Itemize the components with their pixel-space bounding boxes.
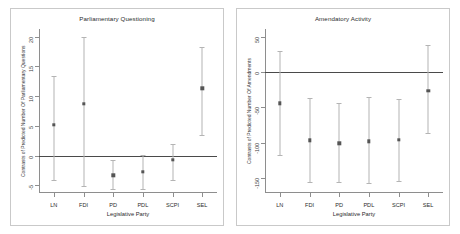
error-bar-ln [53, 76, 54, 180]
y-tick-label-1-0: 50 [254, 37, 260, 43]
x-tick-1-2 [339, 193, 340, 197]
y-tick-0-0 [35, 37, 39, 38]
error-cap-pd-lower [111, 189, 116, 190]
x-tick-label-scpi: SCPI [392, 202, 405, 208]
data-point-scpi [171, 158, 174, 161]
error-cap-fdi-upper [307, 98, 312, 99]
y-tick-label-0-3: 5 [28, 126, 34, 129]
y-tick-label-0-5: -5 [28, 185, 34, 190]
error-cap-pdl-lower [366, 183, 371, 184]
data-point-sel [426, 89, 429, 92]
data-point-pd [111, 173, 114, 176]
error-cap-sel-lower [426, 133, 431, 134]
y-tick-label-1-1: 0 [254, 72, 260, 75]
y-tick-1-4 [261, 178, 265, 179]
x-tick-label-sel: SEL [423, 202, 434, 208]
x-tick-label-ln: LN [276, 202, 283, 208]
y-axis-line-right [265, 29, 266, 193]
plot-area-right: Legislative Party 500-50-100-150LNFDIPDP… [265, 29, 443, 193]
x-tick-label-fdi: FDI [305, 202, 314, 208]
error-bar-sel [202, 47, 203, 135]
x-tick-1-3 [369, 193, 370, 197]
error-cap-sel-upper [200, 47, 205, 48]
x-tick-0-5 [202, 193, 203, 197]
y-tick-0-3 [35, 126, 39, 127]
x-tick-1-4 [399, 193, 400, 197]
x-tick-0-4 [173, 193, 174, 197]
data-point-sel [200, 87, 203, 90]
panel-title-right: Amendatory Activity [237, 15, 449, 22]
error-cap-sel-lower [200, 135, 205, 136]
plot-area-left: Legislative Party 20151050-5LNFDIPDPDLSC… [39, 29, 217, 193]
y-tick-label-1-4: -150 [254, 178, 260, 189]
y-tick-1-3 [261, 143, 265, 144]
error-cap-pdl-lower [140, 189, 145, 190]
data-point-pd [337, 142, 340, 145]
figure-canvas: Parliamentary Questioning Legislative Pa… [0, 0, 460, 234]
error-cap-scpi-lower [396, 181, 401, 182]
x-tick-1-5 [428, 193, 429, 197]
y-axis-title-left: Contrasts of Predicted Number Of Parliam… [20, 45, 26, 176]
error-cap-pdl-upper [140, 155, 145, 156]
x-axis-line-left [39, 192, 217, 193]
y-tick-label-0-4: 0 [28, 156, 34, 159]
x-tick-label-fdi: FDI [79, 202, 88, 208]
y-tick-label-0-1: 15 [28, 66, 34, 72]
y-tick-1-2 [261, 107, 265, 108]
y-tick-label-1-2: -50 [254, 107, 260, 115]
x-tick-1-1 [310, 193, 311, 197]
error-cap-fdi-upper [81, 37, 86, 38]
y-axis-title-right: Contrasts of Predicted Number Of Amendme… [246, 58, 252, 164]
error-cap-ln-lower [277, 155, 282, 156]
error-cap-scpi-upper [396, 99, 401, 100]
x-tick-0-3 [143, 193, 144, 197]
error-cap-pdl-upper [366, 97, 371, 98]
error-cap-scpi-lower [170, 180, 175, 181]
y-tick-0-1 [35, 66, 39, 67]
x-tick-1-0 [280, 193, 281, 197]
x-tick-0-0 [54, 193, 55, 197]
data-point-ln [278, 102, 281, 105]
error-cap-pd-lower [337, 182, 342, 183]
zero-reference-line-1 [265, 72, 443, 73]
error-cap-ln-lower [51, 180, 56, 181]
x-tick-label-pdl: PDL [363, 202, 374, 208]
x-tick-label-pd: PD [109, 202, 117, 208]
error-cap-sel-upper [426, 45, 431, 46]
x-tick-label-pd: PD [335, 202, 343, 208]
y-tick-0-5 [35, 185, 39, 186]
error-cap-pd-upper [337, 103, 342, 104]
data-point-ln [52, 123, 55, 126]
y-axis-line-left [39, 29, 40, 193]
error-cap-fdi-lower [81, 186, 86, 187]
x-tick-0-1 [84, 193, 85, 197]
panel-amendatory-activity: Amendatory Activity Legislative Party 50… [236, 8, 450, 226]
y-tick-label-0-2: 10 [28, 96, 34, 102]
zero-reference-line-0 [39, 156, 217, 157]
x-tick-label-ln: LN [50, 202, 57, 208]
data-point-scpi [397, 138, 400, 141]
error-cap-ln-upper [277, 51, 282, 52]
panel-title-left: Parliamentary Questioning [11, 15, 223, 22]
y-tick-0-2 [35, 96, 39, 97]
data-point-pdl [141, 170, 144, 173]
x-tick-0-2 [113, 193, 114, 197]
x-axis-line-right [265, 192, 443, 193]
error-bar-fdi [83, 37, 84, 186]
error-bar-scpi [172, 144, 173, 180]
x-axis-title-right: Legislative Party [265, 211, 443, 217]
x-tick-label-pdl: PDL [137, 202, 148, 208]
y-tick-1-0 [261, 37, 265, 38]
error-cap-pd-upper [111, 160, 116, 161]
panel-parliamentary-questioning: Parliamentary Questioning Legislative Pa… [10, 8, 224, 226]
data-point-fdi [308, 139, 311, 142]
error-cap-ln-upper [51, 76, 56, 77]
x-tick-label-scpi: SCPI [166, 202, 179, 208]
y-tick-label-0-0: 20 [28, 37, 34, 43]
data-point-fdi [82, 102, 85, 105]
x-axis-title-left: Legislative Party [39, 211, 217, 217]
error-cap-fdi-lower [307, 182, 312, 183]
data-point-pdl [367, 139, 370, 142]
y-tick-label-1-3: -100 [254, 143, 260, 154]
error-cap-scpi-upper [170, 144, 175, 145]
